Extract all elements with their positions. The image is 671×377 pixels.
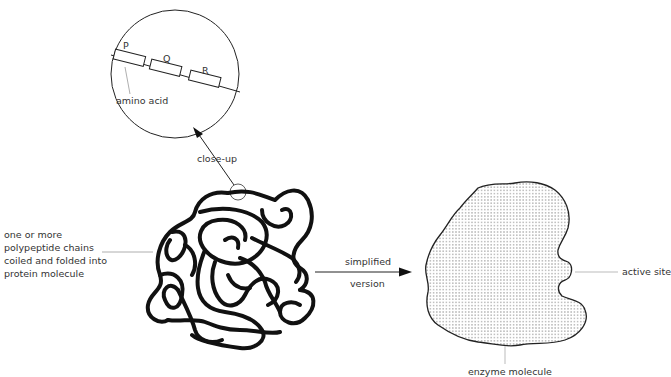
residue-label-r: R xyxy=(202,65,209,76)
simplified-label: simplified xyxy=(345,255,391,268)
closeup-circle xyxy=(111,10,240,138)
residue-label-p: P xyxy=(123,40,129,51)
protein-description-line: protein molecule xyxy=(4,267,107,280)
enzyme-molecule-label: enzyme molecule xyxy=(468,365,552,377)
protein-description-line: polypeptide chains xyxy=(4,241,107,254)
amino-acid-label: amino acid xyxy=(116,94,168,107)
enzyme-molecule xyxy=(426,182,587,346)
closeup-label: close-up xyxy=(197,152,237,165)
protein-description-line: one or more xyxy=(4,228,107,241)
protein-description: one or more polypeptide chains coiled an… xyxy=(4,228,107,280)
residue-label-q: Q xyxy=(163,53,170,64)
protein-coil xyxy=(148,191,314,349)
simplified-arrow xyxy=(315,268,412,277)
protein-description-line: coiled and folded into xyxy=(4,254,107,267)
active-site-label: active site xyxy=(622,265,671,278)
version-label: version xyxy=(350,277,385,290)
